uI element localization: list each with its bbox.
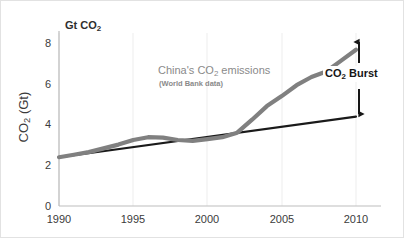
co2-burst-main: CO [325, 67, 342, 79]
y-tick-6: 6 [33, 79, 51, 90]
grid-lines [59, 33, 356, 206]
unit-label: Gt CO2 [65, 19, 101, 33]
y-tick-2: 2 [33, 160, 51, 171]
series-callout-main: China's CO [158, 64, 214, 76]
co2-burst-label: CO2 Burst [323, 66, 380, 82]
chart-plot-area [1, 1, 404, 238]
unit-label-main: Gt CO [65, 19, 97, 31]
x-tick-1990: 1990 [36, 214, 82, 225]
y-tick-0: 0 [33, 201, 51, 212]
series-source-label: (World Bank data) [159, 79, 223, 88]
x-tick-2005: 2005 [259, 214, 305, 225]
y-axis-title-sub: 2 [22, 118, 32, 123]
y-tick-8: 8 [33, 38, 51, 49]
series-callout-tail: emissions [218, 64, 270, 76]
y-axis-title-tail: (Gt) [16, 92, 31, 118]
x-tick-1995: 1995 [110, 214, 156, 225]
chart-figure: 8 6 4 2 0 1990 1995 2000 2005 2010 CO2 (… [0, 0, 404, 238]
y-tick-4: 4 [33, 119, 51, 130]
co2-burst-tail: Burst [346, 67, 378, 79]
y-axis-title: CO2 (Gt) [16, 67, 32, 167]
unit-label-sub: 2 [97, 24, 101, 33]
x-tick-2000: 2000 [184, 214, 230, 225]
series-callout-label: China's CO2 emissions [158, 64, 270, 78]
x-tick-2010: 2010 [333, 214, 379, 225]
y-axis-title-main: CO [16, 123, 31, 143]
